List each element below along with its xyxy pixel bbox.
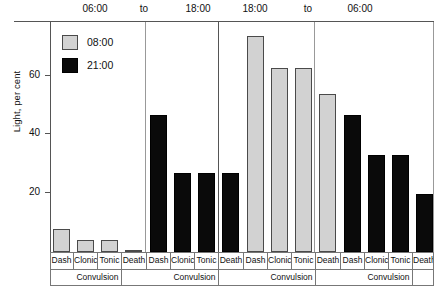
bar-2100-clonic-p3 bbox=[368, 155, 385, 252]
y-axis-ticks: 60 40 20 bbox=[14, 0, 40, 292]
header-group1-from: 06:00 bbox=[55, 3, 135, 14]
bar-0800-tonic-p0 bbox=[101, 240, 118, 252]
cat-sublabel-1: Convulsion bbox=[171, 269, 219, 285]
cat-cell-15: Death bbox=[413, 252, 434, 269]
cat-cell-12: Dash bbox=[341, 252, 365, 269]
bar-2100-tonic-p1 bbox=[198, 173, 215, 252]
y-tick-label-20: 20 bbox=[18, 187, 40, 197]
cat-cell-11: Death bbox=[316, 252, 341, 269]
cat-cell-10: Tonic bbox=[292, 252, 316, 269]
cat-cell-2: Tonic bbox=[98, 252, 122, 269]
y-tick-label-60: 60 bbox=[18, 70, 40, 80]
header-group2-from: 18:00 bbox=[215, 3, 295, 14]
cat-sublabel-2: Convulsion bbox=[268, 269, 316, 285]
cat-cell-9: Clonic bbox=[268, 252, 292, 269]
bar-0800-clonic-p0 bbox=[77, 240, 94, 252]
cat-cell-13: Clonic bbox=[365, 252, 389, 269]
bar-2100-clonic-p1 bbox=[174, 173, 191, 252]
cat-cell-14: Tonic bbox=[389, 252, 413, 269]
cat-sublabel-3: Convulsion bbox=[365, 269, 413, 285]
cat-cell-6: Tonic bbox=[195, 252, 219, 269]
bar-2100-dash-p1 bbox=[150, 115, 167, 252]
cat-cell-5: Clonic bbox=[171, 252, 195, 269]
bar-0800-clonic-p2 bbox=[271, 68, 288, 252]
bar-0800-tonic-p2 bbox=[295, 68, 312, 252]
cat-cell-8: Dash bbox=[244, 252, 268, 269]
cat-sublabel-0: Convulsion bbox=[74, 269, 122, 285]
cat-cell-0: Dash bbox=[50, 252, 74, 269]
cat-cell-7: Death bbox=[219, 252, 244, 269]
bar-2100-dash-p3 bbox=[344, 115, 361, 252]
cat-cell-3: Death bbox=[122, 252, 147, 269]
category-axis: Dash Clonic Tonic Death Dash Clonic Toni… bbox=[50, 252, 434, 292]
header-group2-to: 06:00 bbox=[320, 3, 400, 14]
bar-0800-dash-p2 bbox=[247, 36, 264, 252]
bar-0800-death-p2 bbox=[319, 94, 336, 252]
bar-0800-dash-p0 bbox=[53, 229, 70, 252]
cat-cell-1: Clonic bbox=[74, 252, 98, 269]
y-tick-label-40: 40 bbox=[18, 128, 40, 138]
cat-line-bottom bbox=[50, 285, 434, 286]
bar-2100-death-p3 bbox=[416, 194, 433, 253]
bars-layer bbox=[50, 22, 434, 252]
cat-cell-4: Dash bbox=[147, 252, 171, 269]
chart-figure: 06:00 to 18:00 18:00 to 06:00 Light, per… bbox=[0, 0, 439, 292]
bar-2100-death-p1 bbox=[222, 173, 239, 252]
bar-2100-tonic-p3 bbox=[392, 155, 409, 252]
